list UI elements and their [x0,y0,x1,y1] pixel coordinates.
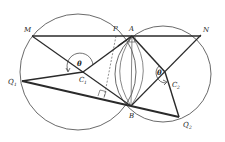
label-M: M [23,26,32,34]
line-Q1-C1 [22,72,83,81]
label-N: N [202,26,210,34]
label-theta-right: θ [157,68,162,77]
label-Q1-sub: 1 [14,82,17,87]
dashed-perpendicular [104,36,116,98]
label-P: P [112,25,118,33]
left-circle [20,14,136,130]
geometry-diagram: M P A N θ θ C 1 C 2 Q 1 Q 2 B [0,0,225,142]
line-C2-Q2 [165,72,179,117]
right-angle-marker-foot [98,90,106,98]
label-theta-left: θ [77,59,82,68]
label-A: A [128,25,134,33]
label-C1-sub: 1 [84,80,87,85]
line-Q1-B [22,81,131,106]
label-Q2-sub: 2 [188,125,192,130]
label-B: B [128,112,134,120]
line-A-C2 [132,36,165,72]
chord-AB [131,36,132,106]
label-C2-sub: 2 [176,85,180,90]
